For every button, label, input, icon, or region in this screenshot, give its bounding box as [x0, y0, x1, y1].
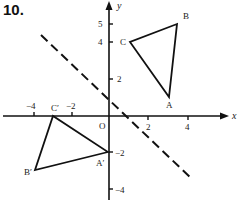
vertex-label-a: A — [166, 100, 173, 110]
vertex-label-b-prime: B′ — [24, 167, 32, 177]
vertex-label-c-prime: C′ — [51, 103, 59, 113]
x-axis: x — [3, 110, 237, 121]
x-tick-label: −2 — [66, 101, 76, 111]
x-tick-label: 4 — [185, 122, 190, 132]
y-tick-label: −2 — [115, 148, 125, 158]
y-tick-label: 2 — [117, 74, 122, 84]
y-tick-label: −4 — [115, 185, 125, 195]
x-tick-label: −4 — [26, 101, 36, 111]
y-axis-label: y — [116, 0, 122, 11]
y-tick-label: 5 — [98, 19, 103, 29]
y-tick-label: 4 — [98, 37, 103, 47]
vertex-label-a-prime: A′ — [96, 158, 104, 168]
vertex-label-b: B — [183, 11, 189, 21]
origin-label: O — [99, 121, 106, 131]
triangle-a-prime-b-prime-c-prime: A′ B′ C′ — [24, 103, 108, 177]
vertex-label-c: C — [120, 37, 126, 47]
y-axis-arrow-icon — [106, 1, 113, 10]
x-axis-label: x — [231, 110, 237, 121]
triangle-abc: A B C — [120, 11, 189, 110]
y-axis: y — [106, 0, 123, 200]
coordinate-plane: x y −4 −2 2 4 5 4 2 −2 −4 O A B C — [0, 0, 239, 200]
x-tick-label: 2 — [146, 122, 151, 132]
x-axis-arrow-icon — [220, 113, 229, 120]
